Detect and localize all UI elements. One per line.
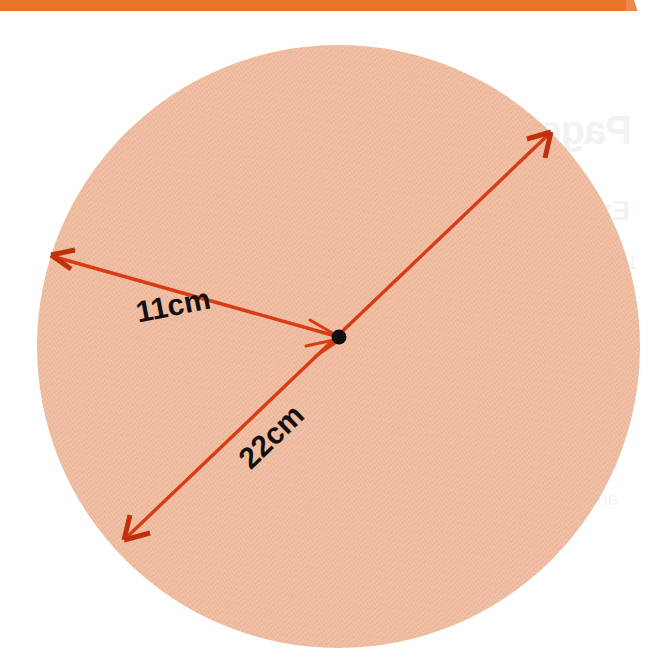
centre-dot [332, 330, 347, 345]
dimension-overlay [0, 0, 656, 665]
worksheet-page: Page 12 Exercise 1 Calculate the radius … [0, 0, 656, 665]
